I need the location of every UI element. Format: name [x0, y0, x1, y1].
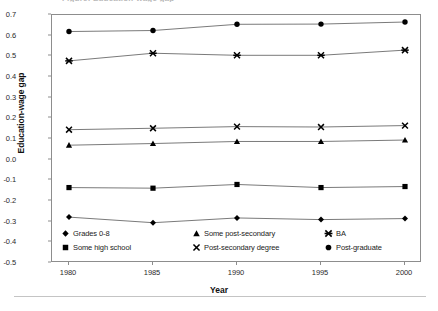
chart-figure: Figure: Education-wage gap Education-wag…	[0, 0, 438, 311]
data-point-circle	[402, 19, 407, 24]
data-point-asterisk	[325, 230, 333, 236]
legend-item-some-post-secondary[interactable]: Some post-secondary	[191, 227, 275, 238]
data-point-diamond	[402, 216, 408, 222]
asterisk-icon	[323, 229, 334, 238]
data-point-circle	[326, 244, 332, 250]
data-point-diamond	[318, 217, 324, 223]
data-point-circle	[234, 22, 239, 27]
data-point-x-cross	[193, 244, 199, 250]
plot-area	[51, 14, 421, 262]
x-cross-icon	[191, 243, 202, 252]
square-icon	[60, 243, 71, 252]
y-tick-label: -0.2	[0, 196, 16, 205]
data-point-asterisk	[149, 50, 157, 56]
y-tick-label: 0.4	[0, 72, 16, 81]
series-some-post-secondary	[66, 137, 408, 148]
legend-item-post-graduate[interactable]: Post-graduate	[323, 241, 382, 252]
data-point-square	[318, 185, 323, 190]
data-point-asterisk	[401, 47, 409, 53]
series-layer	[52, 15, 422, 263]
data-point-square	[234, 182, 239, 187]
x-axis-title: Year	[0, 285, 438, 295]
series-ba	[65, 47, 409, 64]
series-some-high-school	[66, 182, 407, 191]
legend-item-label: Some high school	[73, 242, 131, 253]
y-tick-label: 0.3	[0, 92, 16, 101]
data-point-diamond	[66, 214, 72, 220]
y-tick-label: -0.5	[0, 258, 16, 267]
legend-item-label: Post-secondary degree	[204, 242, 279, 253]
data-point-circle	[318, 21, 323, 26]
data-point-circle	[150, 28, 155, 33]
chart-title-remnant: Figure: Education-wage gap	[62, 0, 292, 2]
data-point-diamond	[150, 220, 156, 226]
x-tick-label: 2000	[384, 268, 424, 277]
chart-legend: Grades 0-8Some high schoolSome post-seco…	[60, 227, 416, 257]
x-tick-label: 1980	[48, 268, 88, 277]
legend-item-some-high-school[interactable]: Some high school	[60, 241, 131, 252]
data-point-triangle	[193, 230, 200, 236]
legend-item-label: Post-graduate	[336, 242, 382, 253]
y-tick-label: 0.5	[0, 51, 16, 60]
data-point-square	[402, 184, 407, 189]
data-point-square	[150, 186, 155, 191]
legend-item-post-secondary-degree[interactable]: Post-secondary degree	[191, 241, 279, 252]
legend-item-label: BA	[336, 228, 346, 239]
data-point-diamond	[62, 230, 68, 236]
triangle-icon	[191, 229, 202, 238]
y-tick-label: -0.4	[0, 237, 16, 246]
y-tick-label: -0.3	[0, 216, 16, 225]
x-tick-label: 1990	[216, 268, 256, 277]
y-tick-label: -0.1	[0, 175, 16, 184]
y-tick-label: 0.6	[0, 30, 16, 39]
legend-item-label: Some post-secondary	[204, 228, 275, 239]
legend-item-label: Grades 0-8	[73, 228, 110, 239]
legend-item-ba[interactable]: BA	[323, 227, 346, 238]
y-tick-label: 0.7	[0, 10, 16, 19]
y-axis-title: Education-wage gap	[16, 48, 26, 178]
legend-item-grades-0-8[interactable]: Grades 0-8	[60, 227, 110, 238]
y-tick-label: 0.0	[0, 154, 16, 163]
x-tick-label: 1985	[132, 268, 172, 277]
circle-icon	[323, 243, 334, 252]
series-post-graduate	[66, 19, 407, 34]
series-post-secondary-degree	[66, 123, 408, 133]
x-tick-label: 1995	[300, 268, 340, 277]
data-point-asterisk	[65, 58, 73, 64]
data-point-asterisk	[233, 52, 241, 58]
bottom-divider	[14, 296, 426, 297]
y-tick-label: 0.1	[0, 134, 16, 143]
data-point-diamond	[234, 215, 240, 221]
series-grades-0-8	[66, 214, 408, 226]
data-point-circle	[66, 29, 71, 34]
diamond-icon	[60, 229, 71, 238]
data-point-asterisk	[317, 52, 325, 58]
data-point-square	[63, 244, 68, 249]
y-tick-label: 0.2	[0, 113, 16, 122]
data-point-square	[66, 185, 71, 190]
